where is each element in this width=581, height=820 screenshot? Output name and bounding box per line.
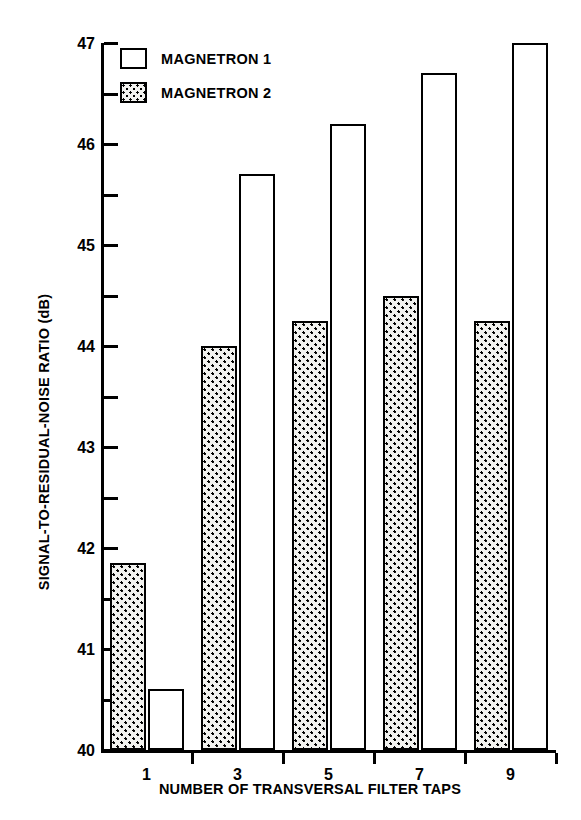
y-tick-label: 41: [77, 641, 95, 659]
legend-item-magnetron-2: MAGNETRON 2: [120, 78, 271, 107]
y-tick-label: 43: [77, 439, 95, 457]
legend-item-magnetron-1: MAGNETRON 1: [120, 44, 271, 73]
bar-magnetron-2-taps-3: [201, 346, 237, 750]
bar-magnetron-1-taps-7: [421, 73, 457, 750]
y-tick-label: 46: [77, 136, 95, 154]
chart-figure: SIGNAL-TO-RESIDUAL-NOISE RATIO (dB) NUMB…: [0, 0, 581, 820]
x-tick-mark: [464, 753, 467, 764]
y-axis-title: SIGNAL-TO-RESIDUAL-NOISE RATIO (dB): [36, 182, 52, 702]
bar-magnetron-1-taps-3: [239, 174, 275, 750]
legend-label-magnetron-2: MAGNETRON 2: [161, 85, 271, 101]
y-tick-minor-mark: [104, 497, 118, 500]
bar-magnetron-2-taps-7: [383, 296, 419, 751]
y-tick-minor-mark: [104, 93, 118, 96]
y-tick-mark: [104, 143, 118, 146]
x-axis-title: NUMBER OF TRANSVERSAL FILTER TAPS: [60, 781, 560, 797]
legend: MAGNETRON 1 MAGNETRON 2: [120, 44, 271, 112]
x-axis-line: [101, 750, 556, 753]
y-tick-label: 40: [77, 742, 95, 760]
bar-magnetron-2-taps-5: [292, 321, 328, 750]
bar-magnetron-1-taps-9: [512, 43, 548, 750]
x-tick-label-9: 9: [506, 766, 515, 784]
x-tick-label-3: 3: [233, 766, 242, 784]
y-tick-label: 44: [77, 338, 95, 356]
x-tick-mark: [373, 753, 376, 764]
x-tick-mark: [191, 753, 194, 764]
legend-label-magnetron-1: MAGNETRON 1: [161, 51, 271, 67]
x-tick-label-7: 7: [415, 766, 424, 784]
y-tick-mark: [104, 345, 118, 348]
bar-magnetron-2-taps-1: [110, 563, 146, 750]
y-tick-minor-mark: [104, 396, 118, 399]
bar-magnetron-1-taps-5: [330, 124, 366, 750]
bar-magnetron-1-taps-1: [148, 689, 184, 750]
x-tick-label-5: 5: [324, 766, 333, 784]
white-box-icon: [120, 48, 147, 69]
y-tick-mark: [104, 446, 118, 449]
x-tick-mark: [555, 753, 558, 764]
x-tick-label-1: 1: [142, 766, 151, 784]
y-tick-label: 45: [77, 237, 95, 255]
dotted-box-icon: [120, 82, 147, 103]
y-tick-label: 47: [77, 35, 95, 53]
bar-magnetron-2-taps-9: [474, 321, 510, 750]
y-tick-label: 42: [77, 540, 95, 558]
y-tick-mark: [104, 547, 118, 550]
plot-area: 4041424344454647 13579: [101, 43, 556, 750]
y-tick-mark: [104, 244, 118, 247]
y-tick-mark: [104, 42, 118, 45]
x-tick-mark: [282, 753, 285, 764]
y-tick-minor-mark: [104, 194, 118, 197]
y-tick-minor-mark: [104, 295, 118, 298]
